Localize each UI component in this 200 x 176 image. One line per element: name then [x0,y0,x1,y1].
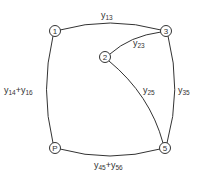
edge-label-y23: y23 [133,38,145,49]
edge-label-y14-y16: y14+y16 [4,85,33,96]
node-P: P [50,143,61,154]
edge-label-y45-y56: y45+y56 [94,160,123,171]
svg-text:2: 2 [103,53,108,62]
svg-text:1: 1 [53,27,58,36]
edge-label-y25: y25 [143,85,155,96]
graph-svg: 1 3 2 P 5 y13 y23 y14+y16 y25 y35 y45+y5… [0,0,200,176]
node-2: 2 [100,52,111,63]
edge-P-5 [60,149,160,156]
svg-text:5: 5 [163,144,168,153]
edge-1-P [47,36,54,143]
svg-text:P: P [52,144,57,153]
node-5: 5 [160,143,171,154]
node-3: 3 [161,26,172,37]
edge-2-5 [109,61,163,143]
edge-3-5 [167,36,175,143]
edge-1-3 [60,23,161,30]
node-1: 1 [50,26,61,37]
edge-label-y13: y13 [101,10,113,21]
edge-label-y35: y35 [178,85,190,96]
graph-diagram: 1 3 2 P 5 y13 y23 y14+y16 y25 y35 y45+y5… [0,0,200,176]
svg-text:3: 3 [164,27,169,36]
